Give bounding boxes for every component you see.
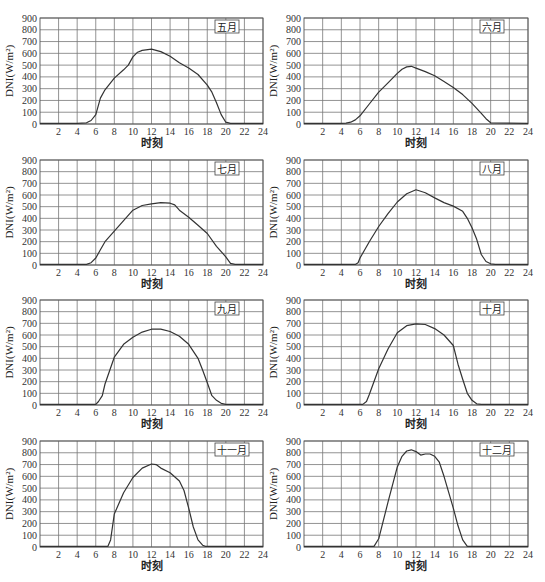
- x-tick-label: 24: [258, 549, 268, 560]
- month-label: 五月: [217, 22, 237, 33]
- x-tick-label: 2: [56, 549, 61, 560]
- y-tick-label: 800: [22, 306, 37, 317]
- month-label: 十月: [482, 303, 502, 315]
- y-tick-label: 500: [286, 60, 301, 71]
- y-tick-label: 900: [286, 155, 301, 166]
- x-tick-label: 6: [93, 267, 98, 278]
- y-tick-label: 600: [286, 190, 301, 201]
- y-tick-label: 600: [286, 48, 301, 59]
- x-tick-label: 8: [112, 267, 117, 278]
- y-tick-label: 500: [286, 341, 301, 352]
- y-tick-label: 700: [22, 36, 37, 47]
- x-tick-label: 18: [202, 267, 212, 278]
- x-tick-label: 2: [56, 267, 61, 278]
- x-tick-label: 14: [165, 549, 175, 560]
- y-tick-label: 200: [286, 95, 301, 106]
- x-tick-label: 2: [320, 407, 325, 418]
- y-tick-label: 400: [286, 494, 301, 505]
- x-tick-label: 6: [93, 126, 98, 137]
- x-tick-label: 2: [320, 549, 325, 560]
- y-tick-label: 800: [22, 24, 37, 35]
- y-tick-label: 500: [286, 483, 301, 494]
- x-tick-label: 6: [358, 407, 363, 418]
- y-tick-label: 300: [286, 225, 301, 236]
- y-tick-label: 0: [32, 260, 37, 271]
- chart-panel-5: 0100200300400500600700800900246810121416…: [3, 295, 268, 432]
- x-tick-label: 14: [165, 267, 175, 278]
- y-tick-label: 300: [22, 365, 37, 376]
- month-label: 十一月: [217, 444, 247, 456]
- x-tick-label: 22: [504, 267, 514, 278]
- y-tick-label: 0: [296, 542, 301, 553]
- y-tick-label: 700: [286, 36, 301, 47]
- x-tick-label: 16: [448, 267, 458, 278]
- x-tick-label: 24: [258, 126, 268, 137]
- y-tick-label: 600: [22, 330, 37, 341]
- x-tick-label: 4: [339, 267, 344, 278]
- y-tick-label: 100: [286, 107, 301, 118]
- y-tick-label: 100: [286, 530, 301, 541]
- x-axis-label: 时刻: [141, 559, 163, 573]
- x-tick-label: 4: [75, 267, 80, 278]
- y-tick-label: 200: [22, 95, 37, 106]
- month-label: 七月: [217, 164, 237, 175]
- y-tick-label: 800: [286, 447, 301, 458]
- x-tick-label: 16: [184, 126, 194, 137]
- x-tick-label: 22: [504, 126, 514, 137]
- x-tick-label: 14: [430, 549, 440, 560]
- y-tick-label: 0: [296, 260, 301, 271]
- chart-panel-1: 0100200300400500600700800900246810121416…: [3, 13, 268, 151]
- x-tick-label: 10: [128, 407, 138, 418]
- x-tick-label: 12: [411, 407, 421, 418]
- x-tick-label: 20: [221, 126, 231, 137]
- x-tick-label: 12: [147, 126, 157, 137]
- x-tick-label: 24: [523, 126, 533, 137]
- y-tick-label: 600: [22, 48, 37, 59]
- x-tick-label: 24: [523, 267, 533, 278]
- month-label: 十二月: [482, 444, 512, 456]
- x-axis-label: 时刻: [405, 277, 427, 291]
- y-tick-label: 0: [296, 119, 301, 130]
- x-tick-label: 20: [486, 267, 496, 278]
- y-tick-label: 600: [286, 471, 301, 482]
- x-tick-label: 10: [128, 549, 138, 560]
- y-axis-label: DNI(W/m²): [3, 186, 16, 239]
- x-tick-label: 10: [392, 126, 402, 137]
- y-axis-label: DNI(W/m²): [3, 326, 16, 379]
- x-tick-label: 22: [239, 549, 249, 560]
- y-tick-label: 600: [22, 471, 37, 482]
- y-tick-label: 600: [286, 330, 301, 341]
- y-tick-label: 0: [32, 542, 37, 553]
- y-tick-label: 0: [32, 119, 37, 130]
- x-tick-label: 20: [486, 407, 496, 418]
- chart-panel-6: 0100200300400500600700800900246810121416…: [267, 295, 533, 432]
- x-axis-label: 时刻: [141, 136, 163, 150]
- x-tick-label: 20: [221, 407, 231, 418]
- y-tick-label: 100: [22, 107, 37, 118]
- y-tick-label: 100: [22, 388, 37, 399]
- chart-panel-8: 0100200300400500600700800900246810121416…: [267, 436, 533, 574]
- x-tick-label: 14: [430, 126, 440, 137]
- x-tick-label: 22: [239, 267, 249, 278]
- y-axis-label: DNI(W/m²): [267, 186, 280, 239]
- x-tick-label: 20: [486, 549, 496, 560]
- y-tick-label: 400: [22, 213, 37, 224]
- y-tick-label: 800: [286, 24, 301, 35]
- x-tick-label: 20: [486, 126, 496, 137]
- y-tick-label: 200: [286, 518, 301, 529]
- x-tick-label: 14: [165, 407, 175, 418]
- x-tick-label: 14: [430, 407, 440, 418]
- y-tick-label: 300: [286, 506, 301, 517]
- y-tick-label: 400: [22, 494, 37, 505]
- x-tick-label: 8: [376, 407, 381, 418]
- y-tick-label: 200: [22, 518, 37, 529]
- x-tick-label: 16: [448, 549, 458, 560]
- y-tick-label: 900: [22, 436, 37, 447]
- x-tick-label: 4: [75, 407, 80, 418]
- x-axis-label: 时刻: [141, 277, 163, 291]
- y-tick-label: 700: [22, 318, 37, 329]
- x-tick-label: 20: [221, 267, 231, 278]
- x-tick-label: 18: [202, 549, 212, 560]
- x-axis-label: 时刻: [405, 136, 427, 150]
- y-tick-label: 700: [22, 178, 37, 189]
